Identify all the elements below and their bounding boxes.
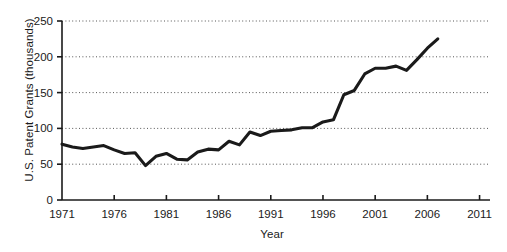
y-tick-label: 250 [23, 15, 53, 27]
x-tick-label: 2006 [407, 208, 447, 220]
gridlines [62, 21, 490, 164]
patent-grants-line-chart: U.S. Patent Grants (thousands) Year 0501… [0, 0, 507, 252]
y-tick-label: 100 [23, 122, 53, 134]
y-tick-label: 150 [23, 87, 53, 99]
x-tick-label: 1981 [146, 208, 186, 220]
x-tick-label: 1996 [303, 208, 343, 220]
x-tick-label: 2011 [460, 208, 500, 220]
x-tick-label: 1971 [42, 208, 82, 220]
x-tick-label: 2001 [355, 208, 395, 220]
y-tick-label: 200 [23, 51, 53, 63]
x-tick-label: 1991 [251, 208, 291, 220]
y-tick-label: 0 [23, 194, 53, 206]
x-tick-label: 1976 [94, 208, 134, 220]
x-tick-label: 1986 [199, 208, 239, 220]
y-tick-label: 50 [23, 158, 53, 170]
data-line-series-patent-grants [62, 39, 438, 166]
